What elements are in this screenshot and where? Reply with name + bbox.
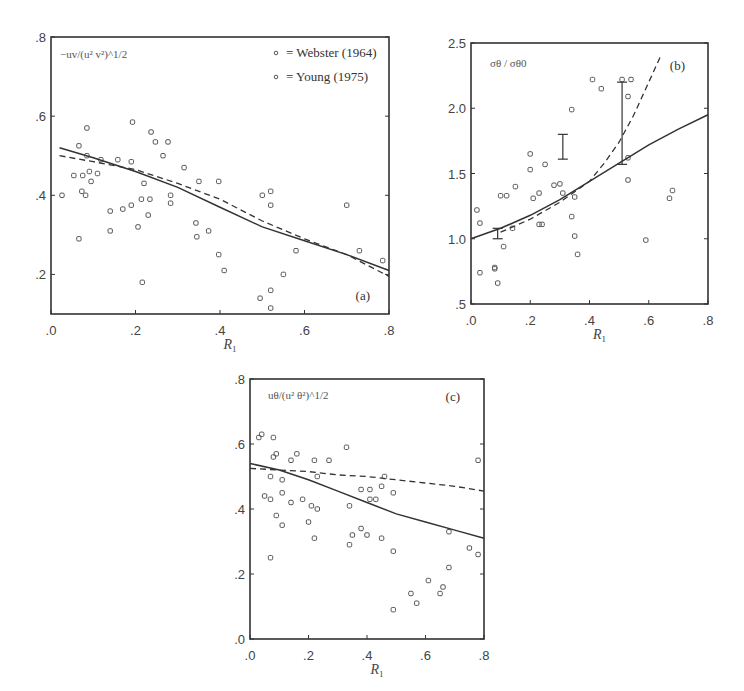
data-point-marker [415, 601, 419, 605]
data-point-marker [146, 213, 150, 217]
data-point-marker [217, 179, 221, 183]
plot-frame [471, 43, 708, 304]
data-point-marker [501, 244, 505, 248]
data-point-marker [357, 249, 361, 253]
data-point-marker [359, 526, 363, 530]
data-point-marker [168, 201, 172, 205]
data-point-marker [347, 504, 351, 508]
data-point-marker [206, 229, 210, 233]
data-point-marker [89, 179, 93, 183]
data-point-marker [391, 608, 395, 612]
data-point-marker [85, 126, 89, 130]
data-point-marker [312, 536, 316, 540]
y-tick-label: .2 [35, 267, 46, 282]
x-tick-label: .0 [245, 648, 256, 663]
plot-frame [250, 379, 484, 639]
panel-tag: (a) [356, 288, 370, 303]
data-point-marker [116, 158, 120, 162]
x-tick-label: .4 [215, 323, 226, 338]
data-point-marker [504, 194, 508, 198]
data-point-marker [467, 546, 471, 550]
data-point-marker [168, 193, 172, 197]
data-point-marker [136, 225, 140, 229]
y-tick-label: 2.0 [448, 101, 466, 116]
data-point-marker [368, 497, 372, 501]
x-axis-label: R1 [369, 662, 383, 679]
y-tick-label: .2 [234, 567, 245, 582]
data-point-marker [599, 87, 603, 91]
data-point-marker [537, 222, 541, 226]
data-point-marker [478, 271, 482, 275]
y-axis-label: σθ / σθ0 [490, 57, 527, 69]
y-tick-label: 2.5 [448, 36, 466, 51]
data-point-marker [60, 193, 64, 197]
data-point-marker [543, 162, 547, 166]
data-point-marker [166, 140, 170, 144]
data-point-marker [409, 591, 413, 595]
data-point-marker [570, 214, 574, 218]
data-point-marker [552, 183, 556, 187]
data-point-marker [269, 306, 273, 310]
data-point-marker [80, 189, 84, 193]
data-point-marker [149, 130, 153, 134]
dashed-curve [501, 56, 661, 232]
data-point-marker [281, 272, 285, 276]
y-axis-label: uθ/(u² θ²)^1/2 [268, 389, 328, 402]
data-point-marker [262, 494, 266, 498]
data-point-marker [493, 267, 497, 271]
data-point-marker [148, 197, 152, 201]
data-point-marker [77, 237, 81, 241]
x-tick-label: .2 [303, 648, 314, 663]
data-point-marker [217, 252, 221, 256]
data-point-marker [260, 432, 264, 436]
data-point-marker [540, 222, 544, 226]
data-point-marker [537, 191, 541, 195]
data-point-marker [374, 497, 378, 501]
data-point-marker [268, 474, 272, 478]
y-tick-label: .4 [35, 188, 46, 203]
data-point-marker [295, 452, 299, 456]
data-point-marker [108, 229, 112, 233]
y-tick-label: .0 [234, 632, 245, 647]
data-point-marker [77, 144, 81, 148]
solid-curve [471, 115, 708, 239]
data-point-marker [289, 458, 293, 462]
x-tick-label: .6 [299, 323, 310, 338]
y-tick-label: .5 [455, 297, 466, 312]
data-point-marker [575, 252, 579, 256]
data-point-marker [142, 181, 146, 185]
data-point-marker [667, 196, 671, 200]
data-point-marker [531, 196, 535, 200]
x-tick-label: .6 [420, 648, 431, 663]
data-point-marker [95, 171, 99, 175]
y-tick-label: .4 [234, 502, 245, 517]
data-point-marker [478, 221, 482, 225]
data-point-marker [268, 497, 272, 501]
data-point-marker [426, 578, 430, 582]
data-point-marker [350, 533, 354, 537]
data-point-marker [590, 77, 594, 81]
panel-b: .0.2.4.6.8.51.01.52.02.5R1σθ / σθ0(b) [448, 36, 714, 344]
data-point-marker [347, 543, 351, 547]
data-point-marker [309, 504, 313, 508]
data-point-marker [528, 152, 532, 156]
data-point-marker [269, 288, 273, 292]
data-point-marker [368, 487, 372, 491]
data-point-marker [573, 195, 577, 199]
x-tick-label: .4 [584, 313, 595, 328]
data-point-marker [222, 268, 226, 272]
data-point-marker [81, 173, 85, 177]
data-point-marker [447, 565, 451, 569]
panel-a: .0.2.4.6.8.2.4.6.8R1−uv/(u² v²)^1/2(a)= … [35, 30, 394, 354]
data-point-marker [300, 497, 304, 501]
data-point-marker [327, 458, 331, 462]
y-tick-label: .6 [35, 109, 46, 124]
x-tick-label: .0 [46, 323, 57, 338]
data-point-marker [379, 484, 383, 488]
data-point-marker [476, 552, 480, 556]
data-point-marker [391, 491, 395, 495]
legend-marker-icon [274, 51, 278, 55]
data-point-marker [140, 280, 144, 284]
data-point-marker [496, 281, 500, 285]
data-point-marker [475, 208, 479, 212]
